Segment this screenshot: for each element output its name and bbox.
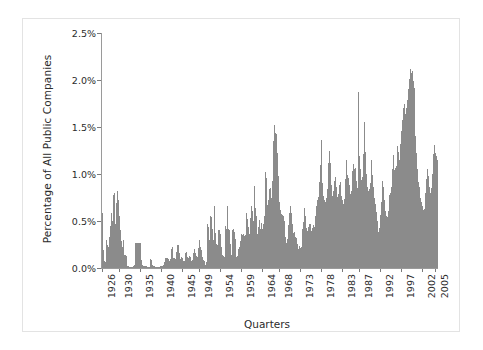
x-axis-tick-mark bbox=[321, 269, 322, 272]
x-axis-tick-label: 2002 bbox=[426, 274, 437, 298]
y-axis-tick-labels: 0.0%0.5%1.0%1.5%2.0%2.5% bbox=[56, 0, 96, 350]
x-axis-tick-label: 2005 bbox=[439, 274, 450, 298]
x-axis-tick-mark bbox=[241, 269, 242, 272]
y-axis-tick-label: 1.0% bbox=[56, 169, 96, 180]
x-axis-tick-mark bbox=[182, 269, 183, 272]
x-axis-tick-mark bbox=[380, 269, 381, 272]
bar bbox=[437, 160, 438, 268]
x-axis-tick-label: 1949 bbox=[203, 274, 214, 298]
plot-area bbox=[102, 33, 438, 268]
x-axis-tick-label: 1968 bbox=[283, 274, 294, 298]
x-axis-tick-mark bbox=[220, 269, 221, 272]
x-axis-tick-mark bbox=[359, 269, 360, 272]
x-axis-tick-mark bbox=[401, 269, 402, 272]
x-axis-title: Quarters bbox=[96, 318, 438, 330]
y-axis-tick-label: 2.5% bbox=[56, 28, 96, 39]
x-axis-tick-label: 1959 bbox=[245, 274, 256, 298]
x-axis-tick-mark bbox=[279, 269, 280, 272]
y-axis-title: Percentage of All Public Companies bbox=[41, 39, 53, 259]
x-axis-tick-mark bbox=[161, 269, 162, 272]
x-axis-tick-label: 1926 bbox=[106, 274, 117, 298]
y-axis-tick-label: 0.5% bbox=[56, 216, 96, 227]
x-axis-tick-label: 1940 bbox=[165, 274, 176, 298]
x-axis-tick-label: 1935 bbox=[144, 274, 155, 298]
y-axis-tick-label: 1.5% bbox=[56, 122, 96, 133]
x-axis-tick-mark bbox=[262, 269, 263, 272]
bar-chart: Percentage of All Public Companies 0.0%0… bbox=[0, 0, 483, 350]
x-axis-tick-label: 1954 bbox=[224, 274, 235, 298]
x-axis-tick-label: 1930 bbox=[123, 274, 134, 298]
x-axis-tick-label: 1978 bbox=[325, 274, 336, 298]
x-axis-tick-label: 1992 bbox=[384, 274, 395, 298]
x-axis-tick-mark bbox=[140, 269, 141, 272]
x-axis-tick-mark bbox=[342, 269, 343, 272]
x-axis-tick-label: 1997 bbox=[405, 274, 416, 298]
x-axis-line bbox=[101, 268, 438, 269]
x-axis-tick-mark bbox=[300, 269, 301, 272]
x-axis-tick-mark bbox=[199, 269, 200, 272]
y-axis-tick-label: 0.0% bbox=[56, 263, 96, 274]
x-axis-tick-mark bbox=[422, 269, 423, 272]
x-axis-tick-label: 1987 bbox=[363, 274, 374, 298]
y-axis-tick-label: 2.0% bbox=[56, 75, 96, 86]
x-axis-tick-label: 1983 bbox=[346, 274, 357, 298]
x-axis-tick-mark bbox=[102, 269, 103, 272]
x-axis-tick-label: 1945 bbox=[186, 274, 197, 298]
x-axis-tick-mark bbox=[119, 269, 120, 272]
x-axis-tick-mark bbox=[435, 269, 436, 272]
x-axis-tick-label: 1964 bbox=[266, 274, 277, 298]
x-axis-tick-label: 1973 bbox=[304, 274, 315, 298]
